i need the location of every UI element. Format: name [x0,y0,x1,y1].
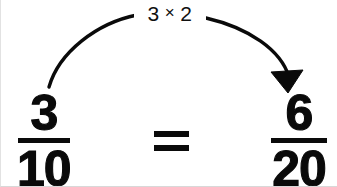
arrow-arc-left-segment [49,15,137,87]
operation-left-term: 3 [148,2,160,26]
operation-label: 3 × 2 [134,0,206,28]
equals-sign-top-bar [154,131,189,137]
right-fraction-denominator: 20 [272,148,326,187]
left-fraction-numerator: 3 [30,92,57,134]
equals-sign-bottom-bar [154,145,189,151]
operation-right-term: 2 [180,2,192,26]
right-fraction: 6 20 [271,92,327,187]
arrow-arc-right-segment [206,18,289,77]
left-fraction-denominator: 10 [17,148,71,187]
right-fraction-numerator: 6 [286,92,313,134]
left-fraction: 3 10 [17,92,71,187]
equals-sign [154,131,189,151]
multiplication-sign-icon: × [165,3,175,23]
fraction-equivalence-diagram: 3 × 2 3 10 6 20 [0,0,337,187]
